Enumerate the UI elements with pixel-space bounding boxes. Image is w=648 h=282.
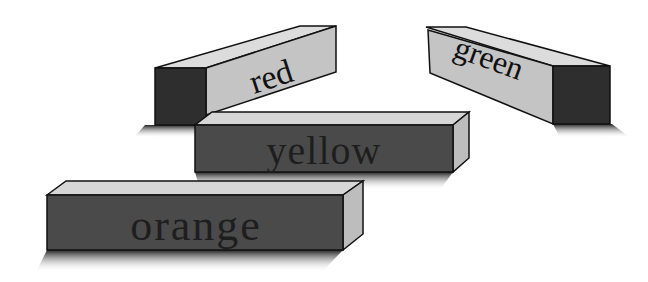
- block-orange-shadow: [36, 250, 343, 272]
- block-yellow: yellow: [195, 112, 469, 190]
- block-orange-label: orange: [130, 201, 262, 250]
- block-orange: orange: [36, 181, 363, 272]
- block-labels-diagram: red green yellow orange: [0, 0, 648, 282]
- block-yellow-top-face: [195, 112, 469, 125]
- block-red-end-face: [155, 68, 206, 125]
- block-green-end-face: [553, 66, 610, 124]
- block-yellow-label: yellow: [267, 128, 382, 173]
- block-orange-top-face: [47, 181, 363, 195]
- block-green-shadow: [553, 124, 628, 138]
